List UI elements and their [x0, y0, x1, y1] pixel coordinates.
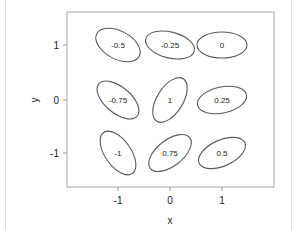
y-tick-label: 1 [53, 40, 59, 51]
ellipse-label: -1 [114, 149, 122, 158]
correlation-ellipse: -0.25 [143, 26, 198, 63]
ellipse-label: 0.5 [216, 149, 228, 158]
y-axis-label: y [29, 98, 40, 103]
ellipse-label: 0.75 [162, 149, 178, 158]
ellipse-label: -0.75 [109, 96, 128, 105]
ellipse-group: -0.5-0.250-0.7510.25-10.750.5 [90, 21, 250, 181]
y-tick-label: -1 [50, 148, 59, 159]
correlation-ellipse: -0.75 [90, 74, 145, 126]
ellipse-label: 0 [220, 41, 225, 50]
correlation-ellipse: -0.5 [90, 21, 146, 68]
correlation-ellipse: 1 [146, 72, 195, 128]
correlation-ellipse: 0 [197, 32, 247, 58]
correlation-ellipse: -1 [93, 125, 143, 181]
ellipse-label: -0.5 [111, 41, 125, 50]
x-tick-label: 0 [167, 195, 173, 206]
ellipse-label: 1 [168, 96, 173, 105]
correlation-ellipse: 0.25 [195, 82, 249, 118]
correlation-ellipse: 0.75 [142, 127, 197, 178]
ellipse-label: -0.25 [161, 41, 180, 50]
correlation-ellipse: 0.5 [194, 131, 250, 175]
x-axis: -1 0 1 x [114, 187, 226, 226]
x-tick-label: 1 [219, 195, 225, 206]
y-tick-label: 0 [53, 95, 59, 106]
y-axis: 1 0 -1 y [29, 40, 67, 159]
x-tick-label: -1 [114, 195, 123, 206]
ellipse-chart: -1 0 1 x 1 0 -1 y -0.5-0.250-0.7510.25-1… [0, 0, 299, 230]
x-axis-label: x [168, 215, 173, 226]
ellipse-label: 0.25 [214, 96, 230, 105]
